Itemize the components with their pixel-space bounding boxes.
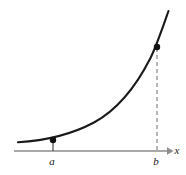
exponential-curve-figure: a b x bbox=[0, 0, 186, 175]
x-axis-arrow-icon bbox=[167, 147, 174, 155]
tick-label-a: a bbox=[49, 155, 55, 167]
point-a-marker bbox=[50, 137, 56, 143]
x-axis-label: x bbox=[174, 144, 180, 156]
tick-label-b: b bbox=[153, 155, 159, 167]
exponential-curve bbox=[18, 11, 169, 142]
figure-canvas: a b x bbox=[0, 0, 186, 175]
point-b-marker bbox=[154, 44, 160, 50]
